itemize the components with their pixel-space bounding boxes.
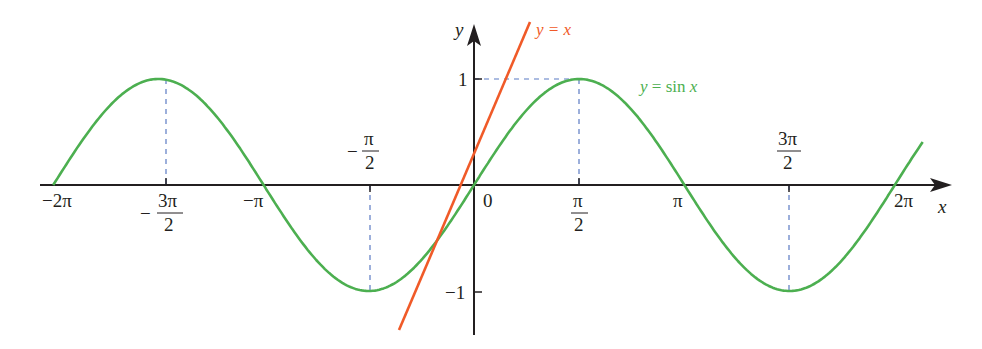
sine-chart: y x y = x y = sin x −2π − 3π 2 −π − π 2 …	[0, 0, 982, 349]
tick-y-neg-one: −1	[445, 282, 465, 303]
tick-pi2-num: π	[573, 190, 583, 211]
tick-neg-3pi2-den: 2	[164, 214, 174, 235]
y-axis-label: y	[453, 19, 464, 40]
tick-neg-pi2-sign: −	[347, 141, 358, 162]
tick-zero: 0	[483, 190, 493, 211]
chart-svg: y x y = x y = sin x −2π − 3π 2 −π − π 2 …	[0, 0, 982, 349]
tick-y-one: 1	[458, 69, 468, 90]
tick-2pi: 2π	[894, 190, 914, 211]
sin-curve-label: y = sin x	[638, 77, 698, 96]
tick-3pi2-den: 2	[783, 152, 793, 173]
tick-neg-pi2-den: 2	[365, 152, 375, 173]
tick-neg-3pi2-num: 3π	[158, 190, 178, 211]
tick-pi2-den: 2	[574, 214, 584, 235]
tick-neg-2pi: −2π	[42, 190, 72, 211]
tick-pi: π	[673, 190, 683, 211]
identity-line-label: y = x	[534, 20, 572, 39]
x-axis-label: x	[937, 196, 947, 217]
sin-label-y: y	[638, 77, 648, 96]
tick-3pi2-num: 3π	[778, 128, 798, 149]
tick-neg-3pi2-sign: −	[140, 203, 151, 224]
sin-label-eq: = sin	[648, 77, 690, 96]
y-axis	[467, 24, 482, 335]
tick-neg-pi2-num: π	[364, 128, 374, 149]
tick-neg-pi: −π	[243, 190, 264, 211]
sin-label-x: x	[689, 77, 698, 96]
